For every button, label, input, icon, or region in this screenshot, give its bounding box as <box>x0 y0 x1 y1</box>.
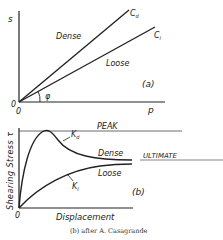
a-x-axis-label: p <box>147 105 154 115</box>
b-origin-label: 0 <box>15 211 20 220</box>
b-dense-label: Dense <box>98 149 123 158</box>
diagram-a: s p 0 0 φ (a) Cd Cl Dense Loose <box>8 9 165 116</box>
b-x-axis-label: Displacement <box>56 212 115 222</box>
b-y-axis-label: Shearing Stress τ <box>6 132 15 210</box>
cl-label: Cl <box>154 31 162 41</box>
kl-leader <box>68 175 73 181</box>
line-dense-cd <box>19 10 129 102</box>
phi-label: φ <box>45 92 51 101</box>
a-panel-label: (a) <box>142 79 155 89</box>
kd-leader <box>63 137 70 141</box>
ultimate-label: ULTIMATE <box>143 152 177 160</box>
a-origin-x-label: 0 <box>16 107 21 116</box>
cd-label: Cd <box>130 9 140 19</box>
kl-label: Kl <box>72 182 79 192</box>
a-y-axis-label: s <box>8 14 13 24</box>
line-loose-cl <box>19 27 155 102</box>
b-panel-label: (b) <box>132 187 145 197</box>
diagram-b: Kd Kl Dense Loose PEAK ULTIMATE (b) 0 Di… <box>6 122 223 222</box>
phi-angle-arc <box>38 91 40 102</box>
shear-strength-diagram: s p 0 0 φ (a) Cd Cl Dense Loose Kd Kl De… <box>0 0 223 240</box>
figure-caption: (b) after A. Casagrande <box>70 227 148 235</box>
peak-label: PEAK <box>97 122 118 131</box>
b-loose-label: Loose <box>98 169 121 178</box>
a-dense-label: Dense <box>56 32 81 41</box>
a-loose-label: Loose <box>106 59 129 68</box>
kd-label: Kd <box>71 130 80 140</box>
